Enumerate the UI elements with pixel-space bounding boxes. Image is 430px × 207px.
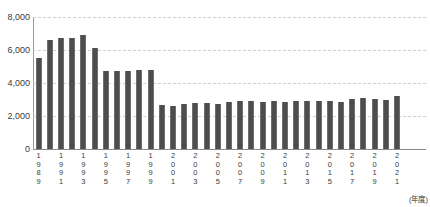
bar-slot: [111, 17, 122, 149]
bar: [114, 71, 120, 149]
bar-slot: [358, 17, 369, 149]
bar-slot: [44, 17, 55, 149]
bar-slot: [201, 17, 212, 149]
bar: [327, 101, 333, 149]
bar-slot: [257, 17, 268, 149]
bar: [192, 103, 198, 149]
x-tick-label: 1991: [55, 152, 66, 186]
bar-slot: [302, 17, 313, 149]
bar-slot: [235, 17, 246, 149]
x-tick-label: 1999: [145, 152, 156, 186]
x-tick-label: 1995: [100, 152, 111, 186]
x-tick-label: 2011: [279, 152, 290, 186]
bar-slot: [78, 17, 89, 149]
bar-slot: [167, 17, 178, 149]
bar: [360, 98, 366, 149]
bar-slot: [145, 17, 156, 149]
x-tick-label: 2019: [369, 152, 380, 186]
x-tick-label: 2003: [190, 152, 201, 186]
x-tick-label: 2021: [391, 152, 402, 186]
bar-slot: [369, 17, 380, 149]
bar: [248, 101, 254, 149]
bar: [204, 103, 210, 149]
x-tick-label: 2007: [235, 152, 246, 186]
bar: [260, 102, 266, 149]
bar: [349, 99, 355, 149]
x-tick-label: 2015: [324, 152, 335, 186]
bar-slot: [134, 17, 145, 149]
bar-slot: [313, 17, 324, 149]
bar: [181, 104, 187, 149]
bar: [136, 70, 142, 149]
bar-slot: [67, 17, 78, 149]
bar-slot: [179, 17, 190, 149]
bar: [47, 40, 53, 149]
bar: [372, 99, 378, 149]
bar: [271, 101, 277, 149]
bar-chart: 02,0004,0006,0008,000 198919911993199519…: [0, 0, 430, 207]
x-tick-label: 2005: [212, 152, 223, 186]
bar-slot: [279, 17, 290, 149]
bar: [394, 96, 400, 149]
bar-slot: [100, 17, 111, 149]
x-tick-label: 1997: [123, 152, 134, 186]
bar: [383, 100, 389, 149]
bar-slot: [246, 17, 257, 149]
y-axis-labels: 02,0004,0006,0008,000: [0, 0, 30, 207]
bar: [170, 106, 176, 149]
bar: [80, 35, 86, 149]
bar-slot: [190, 17, 201, 149]
y-tick-label: 8,000: [7, 12, 30, 22]
y-tick-label: 0: [25, 144, 30, 154]
bar-slot: [55, 17, 66, 149]
bar: [237, 101, 243, 149]
bar: [304, 101, 310, 149]
x-tick-label: 2009: [257, 152, 268, 186]
bar: [159, 105, 165, 149]
bar: [215, 104, 221, 149]
x-tick-label: 1989: [33, 152, 44, 186]
bar: [125, 71, 131, 149]
plot-area: [33, 17, 426, 149]
bar: [103, 71, 109, 149]
y-tick-label: 2,000: [7, 111, 30, 121]
bar-slot: [347, 17, 358, 149]
bar: [92, 48, 98, 149]
x-axis-labels: 1989199119931995199719992001200320052007…: [33, 152, 426, 198]
bar-slot: [324, 17, 335, 149]
x-axis-caption: (年度): [409, 193, 428, 204]
y-tick-label: 6,000: [7, 45, 30, 55]
x-tick-label: 1993: [78, 152, 89, 186]
x-tick-label: 2017: [347, 152, 358, 186]
bar: [282, 102, 288, 149]
bar-slot: [123, 17, 134, 149]
bar-slot: [268, 17, 279, 149]
bar-slot: [156, 17, 167, 149]
bar: [226, 102, 232, 149]
bar: [293, 101, 299, 149]
bar-slot: [335, 17, 346, 149]
bar-slot: [212, 17, 223, 149]
bar-slot: [89, 17, 100, 149]
x-tick-label: 2001: [167, 152, 178, 186]
bar-slot: [380, 17, 391, 149]
bar-slot: [223, 17, 234, 149]
bar: [316, 101, 322, 149]
x-tick-label: 2013: [302, 152, 313, 186]
bar: [338, 102, 344, 149]
bar: [58, 38, 64, 149]
gridline-0: [33, 149, 426, 150]
bar: [148, 70, 154, 149]
bar: [36, 58, 42, 149]
y-tick-label: 4,000: [7, 78, 30, 88]
bar-slot: [33, 17, 44, 149]
bar-series: [33, 17, 426, 149]
bar: [69, 38, 75, 149]
bar-slot: [291, 17, 302, 149]
bar-slot: [391, 17, 402, 149]
